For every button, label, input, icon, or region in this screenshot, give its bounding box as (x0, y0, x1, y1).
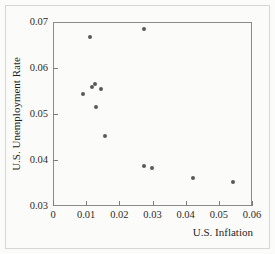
x-axis-tick (219, 201, 220, 206)
y-axis-tick-label: 0.07 (30, 16, 48, 28)
x-axis-tick-label: 0.05 (210, 209, 228, 221)
y-axis-tick (53, 114, 58, 115)
x-axis-tick (119, 201, 120, 206)
y-axis-tick-label: 0.03 (30, 200, 48, 212)
x-axis-tick-label: 0.06 (243, 209, 261, 221)
data-point (99, 87, 103, 91)
data-point (142, 27, 146, 31)
x-axis-tick-label: 0 (50, 209, 55, 221)
data-point (103, 134, 107, 138)
y-axis-tick-label: 0.06 (30, 62, 48, 74)
data-point (90, 85, 94, 89)
x-axis-tick (153, 201, 154, 206)
x-axis-tick-label: 0.03 (143, 209, 161, 221)
y-axis-tick-label: 0.05 (30, 108, 48, 120)
data-point (88, 35, 92, 39)
data-point (150, 166, 154, 170)
figure-page: U.S. Inflation U.S. Unemployment Rate 00… (0, 0, 275, 254)
y-axis-tick (53, 160, 58, 161)
x-axis-tick (86, 201, 87, 206)
x-axis-tick (186, 201, 187, 206)
x-axis-title: U.S. Inflation (193, 226, 253, 238)
data-point (93, 82, 97, 86)
x-axis-tick (53, 201, 54, 206)
y-axis-tick-label: 0.04 (30, 154, 48, 166)
data-point (231, 180, 235, 184)
x-axis-tick (252, 201, 253, 206)
x-axis-tick-label: 0.01 (77, 209, 95, 221)
y-axis-title: U.S. Unemployment Rate (9, 22, 23, 206)
data-point (94, 105, 98, 109)
y-axis-title-text: U.S. Unemployment Rate (10, 57, 22, 171)
x-axis-tick-label: 0.04 (176, 209, 194, 221)
scatter-chart: U.S. Inflation U.S. Unemployment Rate 00… (0, 0, 275, 254)
x-axis-tick-label: 0.02 (110, 209, 128, 221)
data-point (191, 176, 195, 180)
plot-area (53, 22, 252, 206)
data-point (81, 92, 85, 96)
y-axis-tick (53, 68, 58, 69)
data-point (142, 164, 146, 168)
